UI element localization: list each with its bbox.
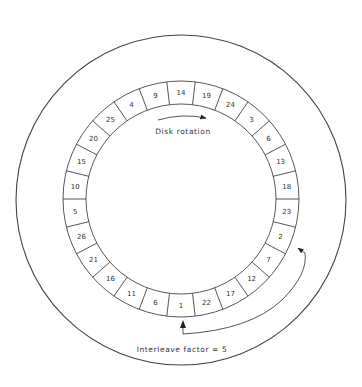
sector-divider [114,277,127,296]
sector-label: 2 [278,233,282,241]
interleave-label: Interleave factor = 5 [137,345,228,354]
sector-divider [273,222,295,228]
sector-label: 14 [177,89,186,97]
sector-labels: 1419243613182327121722161116212651015202… [71,89,291,310]
sector-label: 7 [266,256,270,264]
sector-label: 17 [226,290,235,298]
sector-label: 19 [202,92,211,100]
sector-label: 10 [71,183,80,191]
interleave-arrowhead-up [180,320,186,328]
sector-divider [252,121,269,136]
sector-label: 9 [153,92,157,100]
sector-label: 6 [153,299,158,307]
sector-label: 1 [179,302,183,310]
disk-interleave-diagram: 1419243613182327121722161116212651015202… [0,0,362,387]
sector-divider [273,171,295,177]
sector-label: 25 [106,116,115,124]
sector-divider [193,82,196,105]
sector-label: 6 [266,135,271,143]
sector-divider [265,144,285,155]
sector-label: 3 [249,116,253,124]
sector-divider [215,89,223,111]
sector-label: 24 [226,101,235,109]
sector-label: 26 [77,233,86,241]
sector-divider [193,293,196,316]
sector-divider [66,222,88,228]
sector-label: 23 [282,208,291,216]
sector-divider [235,277,248,296]
disk-platter [16,35,346,365]
sector-label: 15 [77,158,86,166]
sector-label: 20 [89,135,98,143]
rotation-label: Disk rotation [155,127,211,136]
sector-divider [139,89,147,111]
sector-label: 5 [73,208,77,216]
sector-label: 11 [127,290,136,298]
sector-divider [77,144,97,155]
sector-dividers [63,82,299,316]
sector-label: 18 [282,183,291,191]
sector-label: 4 [129,101,134,109]
sector-label: 16 [106,275,115,283]
sector-divider [265,243,285,254]
sector-label: 21 [89,256,98,264]
sector-divider [77,243,97,254]
sector-divider [139,288,147,310]
sector-divider [66,171,88,177]
sector-divider [167,82,170,105]
sector-label: 12 [247,275,256,283]
rotation-arrow [158,116,206,120]
sector-label: 22 [202,299,211,307]
sector-label: 13 [276,158,285,166]
sector-divider [215,288,223,310]
sector-divider [167,293,170,316]
sector-divider [235,102,248,121]
sector-divider [114,102,127,121]
